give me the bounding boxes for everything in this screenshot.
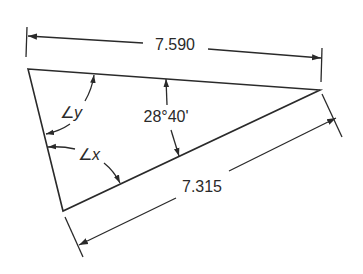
top-dimension-line-right	[208, 49, 321, 58]
top-dimension-line-left	[28, 36, 143, 43]
angle-y-symbol: ∠	[60, 104, 74, 121]
angle-y-arc-lower	[46, 124, 70, 134]
bottom-extension-right	[322, 94, 342, 137]
angle-x-arrow-right	[104, 163, 120, 183]
angle-y-label: ∠y	[60, 105, 82, 121]
triangle-diagram: 7.590 7.315 28°40' ∠y ∠x	[0, 0, 363, 274]
top-dimension-label: 7.590	[155, 37, 195, 53]
bottom-dimension-line-left	[79, 198, 176, 245]
bottom-extension-left	[65, 217, 83, 257]
angle-value-label: 28°40'	[143, 109, 188, 125]
bottom-dimension-label: 7.315	[182, 179, 222, 195]
angle-value-arrow-up	[166, 79, 167, 105]
angle-value-arrow-down	[171, 130, 179, 156]
angle-y-variable: y	[74, 104, 82, 121]
angle-x-label: ∠x	[78, 147, 100, 163]
angle-x-variable: x	[92, 146, 100, 163]
top-extension-left	[26, 27, 27, 57]
angle-x-arrow-left	[48, 147, 75, 149]
top-extension-right	[321, 48, 322, 82]
angle-y-arc-upper	[85, 75, 94, 101]
angle-x-symbol: ∠	[78, 146, 92, 163]
